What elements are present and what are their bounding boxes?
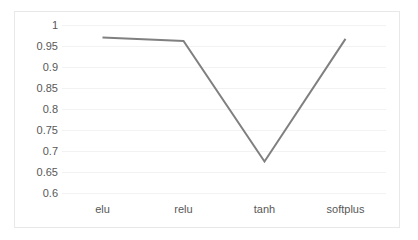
y-tick-label: 0.9	[14, 62, 58, 73]
y-tick-label: 0.85	[14, 83, 58, 94]
series-accuracy	[62, 25, 386, 193]
y-tick-label: 1	[14, 20, 58, 31]
line-chart: 10.950.90.850.80.750.70.650.6 elurelutan…	[0, 0, 418, 240]
y-tick-label: 0.75	[14, 125, 58, 136]
x-tick-label: softplus	[327, 203, 365, 216]
plot-area	[62, 25, 386, 193]
y-tick-label: 0.8	[14, 104, 58, 115]
gridline	[62, 193, 386, 194]
y-axis: 10.950.90.850.80.750.70.650.6	[14, 11, 58, 211]
series-line-accuracy	[103, 38, 346, 162]
x-tick-label: relu	[174, 203, 192, 216]
y-tick-label: 0.6	[14, 188, 58, 199]
y-tick-label: 0.7	[14, 146, 58, 157]
x-tick-label: elu	[95, 203, 110, 216]
y-tick-label: 0.65	[14, 167, 58, 178]
x-axis: elurelutanhsoftplus	[62, 203, 386, 221]
y-tick-label: 0.95	[14, 41, 58, 52]
x-tick-label: tanh	[254, 203, 275, 216]
